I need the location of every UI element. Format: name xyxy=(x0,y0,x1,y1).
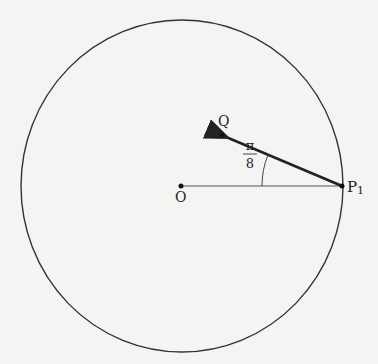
vector-p1-q xyxy=(226,137,342,186)
angle-numerator: π xyxy=(246,138,255,153)
point-o xyxy=(179,184,184,189)
label-p1: P1 xyxy=(347,178,364,197)
point-p1 xyxy=(340,184,345,189)
point-q xyxy=(220,133,225,138)
label-o: O xyxy=(175,189,186,205)
angle-denominator: 8 xyxy=(246,156,254,171)
label-q: Q xyxy=(218,113,229,129)
diagram-canvas: O Q P1 π 8 xyxy=(0,0,378,364)
angle-arc xyxy=(262,155,268,186)
